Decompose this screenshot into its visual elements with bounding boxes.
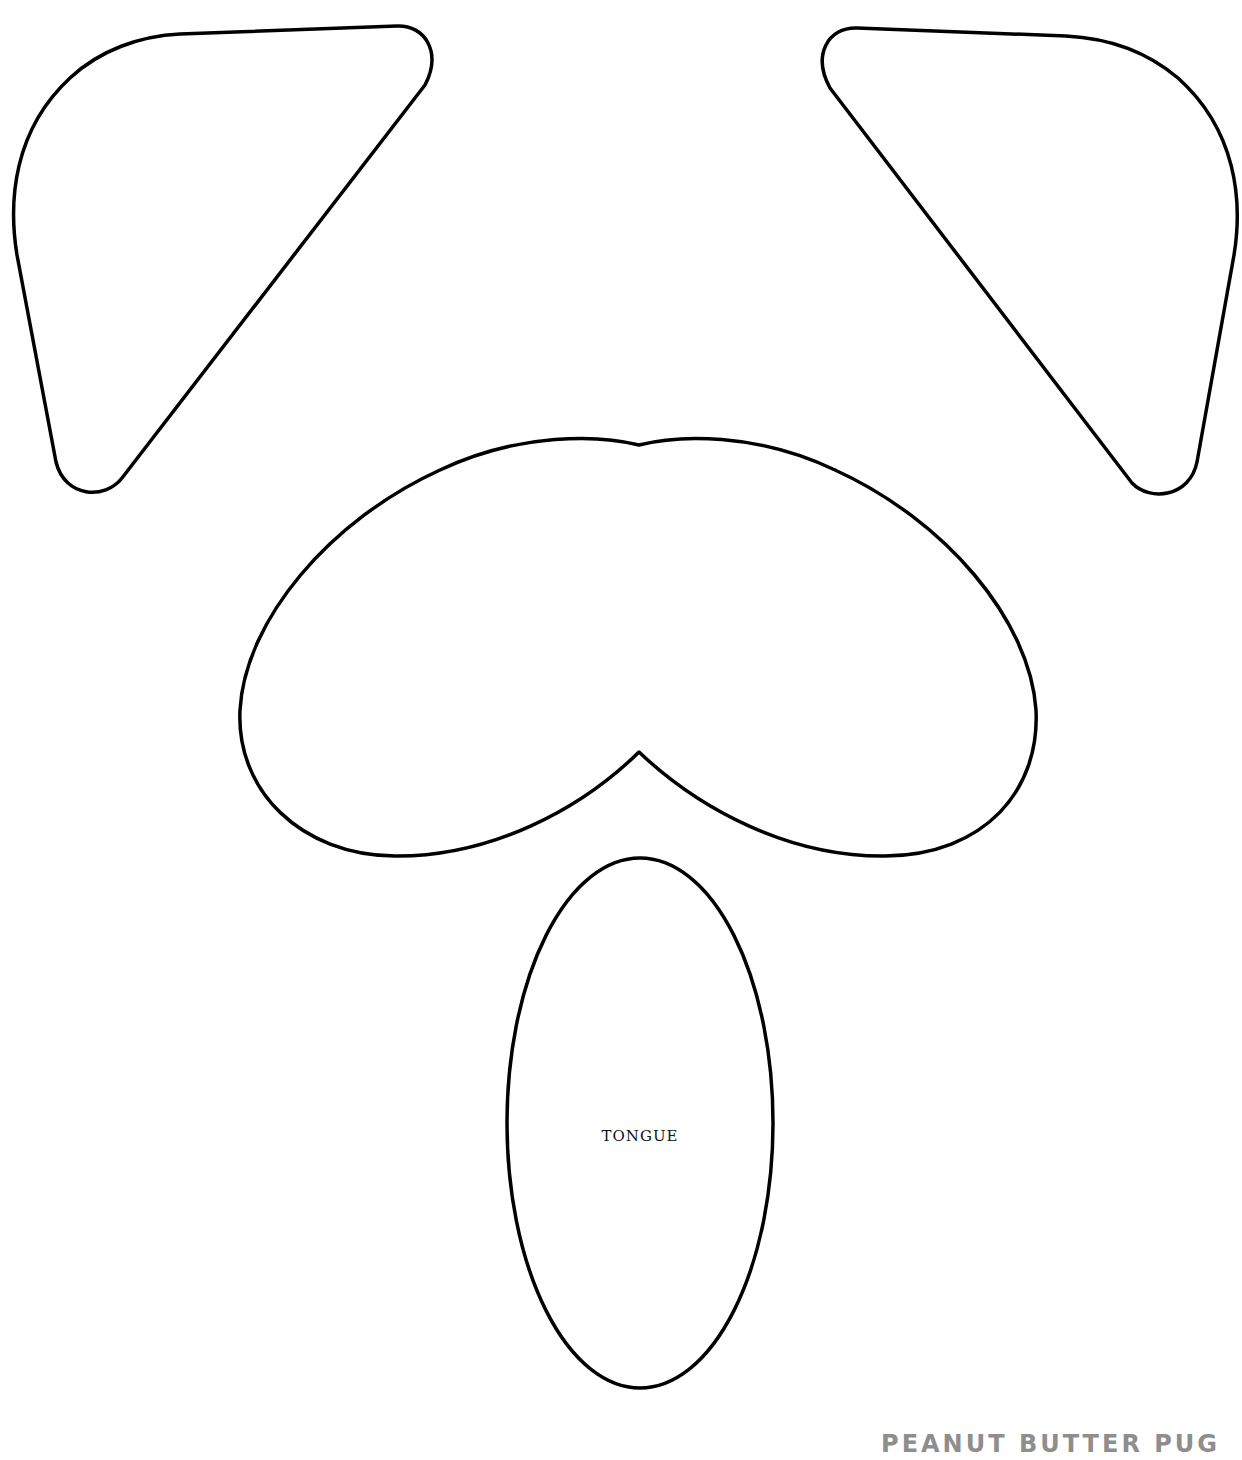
muzzle-outline xyxy=(240,438,1036,856)
template-canvas xyxy=(0,0,1242,1460)
right-ear-outline xyxy=(822,28,1237,494)
tongue-label: TONGUE xyxy=(560,1127,720,1145)
left-ear-outline xyxy=(14,26,432,492)
tongue-outline xyxy=(507,858,773,1388)
brand-watermark: PEANUT BUTTER PUG xyxy=(881,1430,1220,1458)
